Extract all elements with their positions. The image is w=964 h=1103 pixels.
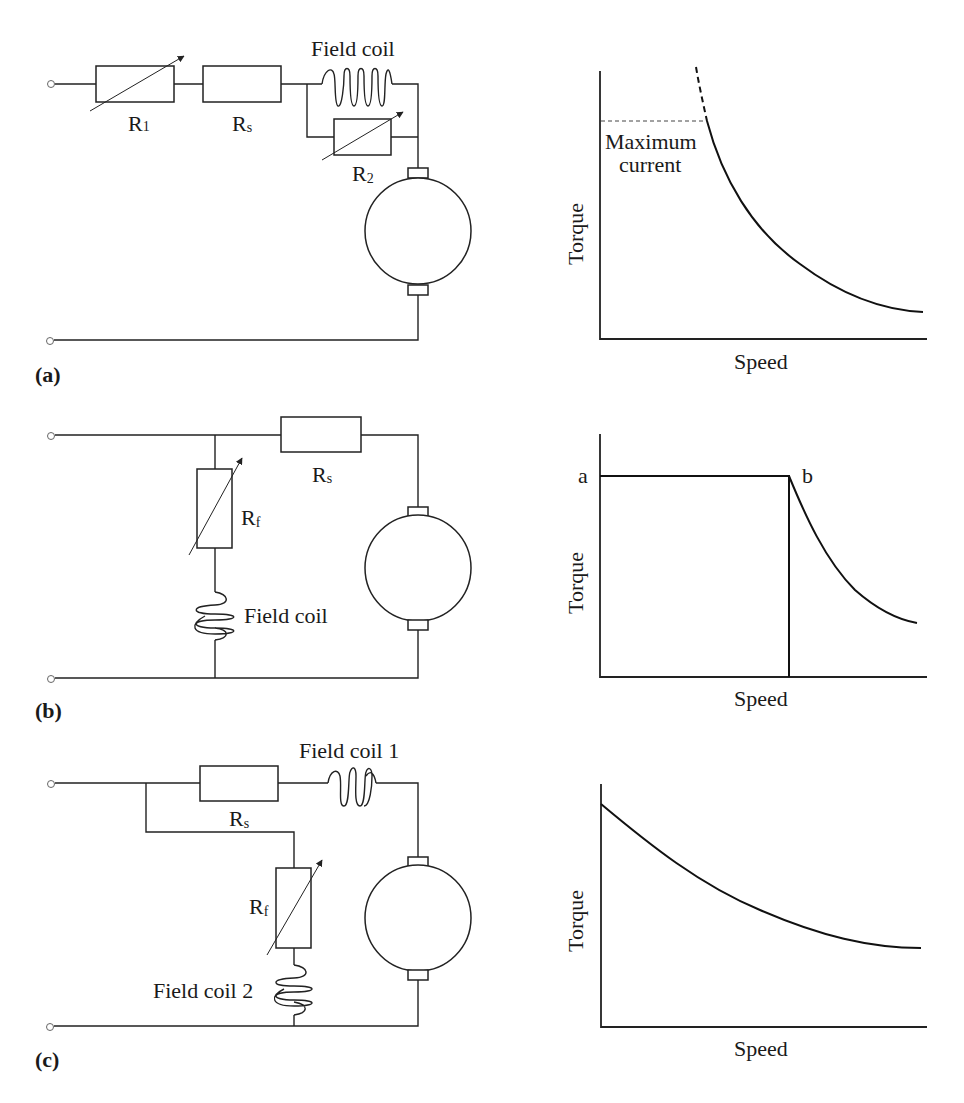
input-terminal-top xyxy=(48,81,55,88)
resistor-rs xyxy=(281,417,361,452)
field-coil-2-inductor xyxy=(275,965,312,1015)
label-field-coil: Field coil xyxy=(311,36,395,61)
circuit-a: R1 Rs Field coil R2 xyxy=(47,36,472,345)
chart-c-curve xyxy=(601,804,921,948)
label-r2: R2 xyxy=(352,161,374,186)
label-field-coil-2: Field coil 2 xyxy=(153,978,253,1003)
chart-b: a b Torque Speed xyxy=(563,434,927,711)
label-rf: Rf xyxy=(249,894,269,919)
chart-c-axes xyxy=(601,784,927,1027)
chart-b-curve xyxy=(789,476,917,623)
variable-resistor-r2 xyxy=(322,112,403,160)
input-terminal-top xyxy=(48,433,55,440)
field-coil-inductor xyxy=(195,592,234,640)
chart-a: Maximum current Torque Speed xyxy=(563,67,927,374)
field-coil-inductor xyxy=(322,69,392,107)
chart-a-axes xyxy=(600,71,927,339)
chart-c: Torque Speed xyxy=(563,784,927,1061)
chart-c-ylabel: Torque xyxy=(563,890,588,952)
dc-motor-armature xyxy=(365,168,471,295)
label-rs: Rs xyxy=(232,111,252,136)
panel-label-b: (b) xyxy=(35,698,62,723)
field-coil-1-inductor xyxy=(328,768,376,806)
chart-a-dashed-curve xyxy=(696,67,707,121)
variable-resistor-rf xyxy=(267,860,322,955)
label-field-coil: Field coil xyxy=(244,603,328,628)
panel-label-c: (c) xyxy=(35,1047,59,1072)
chart-b-xlabel: Speed xyxy=(734,686,788,711)
chart-b-ylabel: Torque xyxy=(563,552,588,614)
circuit-c: Rs Field coil 1 Rf Field coil 2 xyxy=(47,738,472,1031)
label-r1: R1 xyxy=(128,111,150,136)
label-rf: Rf xyxy=(241,505,261,530)
variable-resistor-r1 xyxy=(90,56,184,111)
chart-c-xlabel: Speed xyxy=(734,1036,788,1061)
resistor-rs xyxy=(200,766,278,801)
point-label-a: a xyxy=(578,463,588,488)
label-rs: Rs xyxy=(312,462,332,487)
input-terminal-top xyxy=(48,781,55,788)
chart-a-xlabel: Speed xyxy=(734,349,788,374)
point-label-b: b xyxy=(802,463,813,488)
panel-label-a: (a) xyxy=(35,362,61,387)
resistor-rs xyxy=(203,66,281,102)
motor-circuits-figure: R1 Rs Field coil R2 (a) Maximum current … xyxy=(0,0,964,1103)
annotation-current: current xyxy=(619,152,681,177)
circuit-b: Rs Rf Field coil xyxy=(48,417,472,683)
label-rs: Rs xyxy=(229,806,249,831)
dc-motor-armature xyxy=(365,507,471,630)
dc-motor-armature xyxy=(365,857,471,980)
chart-b-plateau xyxy=(600,476,789,677)
chart-a-curve xyxy=(707,121,923,312)
input-terminal-bottom xyxy=(47,1024,54,1031)
chart-b-axes xyxy=(600,434,927,677)
chart-a-ylabel: Torque xyxy=(563,203,588,265)
annotation-maximum: Maximum xyxy=(605,129,697,154)
label-field-coil-1: Field coil 1 xyxy=(299,738,399,763)
variable-resistor-rf xyxy=(189,458,242,555)
input-terminal-bottom xyxy=(48,676,55,683)
input-terminal-bottom xyxy=(47,338,54,345)
